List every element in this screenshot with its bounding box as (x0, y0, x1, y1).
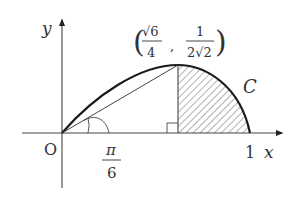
angle-numerator: π (105, 141, 117, 159)
comma: , (170, 38, 174, 53)
right-angle-mark (167, 123, 178, 133)
angle-denominator: 6 (107, 164, 117, 182)
x-tick-one: 1 (245, 143, 255, 162)
x-coord-numerator: √6 (142, 24, 159, 39)
x-coord-denominator: 4 (147, 45, 155, 60)
close-paren: ) (215, 24, 227, 59)
y-axis-label: y (41, 18, 52, 38)
chord-line (62, 65, 178, 133)
x-axis-label: x (264, 142, 274, 162)
y-coord-numerator: 1 (196, 24, 204, 39)
angle-arc-outer (84, 117, 109, 133)
curve-label: C (243, 76, 257, 97)
diagram-canvas: y x O 1 C π 6 ( √6 4 , 1 2√2 ) (0, 0, 300, 199)
origin-label: O (44, 140, 57, 159)
angle-label: π 6 (102, 141, 121, 182)
angle-arc (88, 118, 89, 133)
point-label: ( √6 4 , 1 2√2 ) (133, 24, 227, 60)
y-coord-denominator: 2√2 (187, 45, 212, 60)
